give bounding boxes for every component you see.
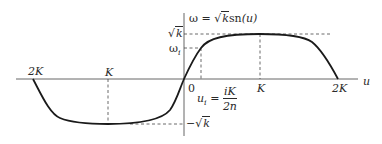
fraction: iK 2n [223, 86, 237, 112]
sn-function: sn [229, 12, 242, 25]
function-arg: (u) [242, 12, 258, 25]
equals-sign: = [210, 92, 219, 105]
u-i-annotation: ui = iK 2n [197, 86, 237, 112]
formula-label: ω = √ksn(u) [189, 13, 257, 24]
sqrt-k: √k [214, 13, 229, 24]
x-tick-right-2k: 2K [332, 83, 347, 94]
sqrt-symbol: √ [168, 27, 175, 40]
sqrt-arg: k [202, 116, 210, 130]
numerator: iK [223, 86, 237, 99]
subscript-i: i [204, 98, 207, 107]
sn-function-diagram: ω = √ksn(u) √k ωi −√k 2K K 0 K 2K u ui =… [0, 0, 382, 144]
sqrt-arg: k [221, 11, 229, 25]
sqrt-arg: k [175, 26, 183, 40]
denominator: 2n [223, 99, 237, 112]
minus-sign: − [186, 117, 195, 130]
omega-symbol: ω [189, 12, 198, 25]
u-axis-label: u [363, 76, 370, 87]
y-tick-omega-i: ωi [169, 43, 181, 57]
y-tick-sqrt-k: √k [168, 28, 183, 39]
omega-symbol: ω [169, 42, 178, 55]
x-tick-left-2k: 2K [28, 66, 43, 77]
x-tick-left-k: K [105, 67, 113, 78]
origin-label: 0 [188, 83, 195, 94]
y-tick-neg-sqrt-k: −√k [186, 118, 210, 129]
x-tick-right-k: K [257, 83, 265, 94]
equals-sign: = [201, 12, 210, 25]
subscript-i: i [178, 48, 181, 57]
